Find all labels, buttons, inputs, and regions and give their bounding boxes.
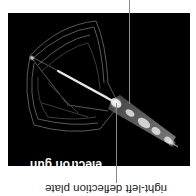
deflection-plate-label: right-left deflection plate [45, 182, 175, 195]
crt-photo: electron gun [8, 13, 190, 166]
crt-illustration [8, 13, 190, 166]
leader-line-top [129, 0, 130, 104]
leader-line-deflection-plate [116, 103, 117, 183]
electron-gun-label: electron gun [32, 158, 102, 166]
